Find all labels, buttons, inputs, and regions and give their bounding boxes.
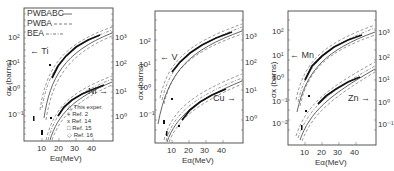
svg-text:10¹: 10¹ — [245, 86, 257, 95]
legend-lines: PWBABC PWBA BEA — [27, 8, 72, 38]
svg-text:30: 30 — [333, 148, 342, 157]
svg-text:10³: 10³ — [115, 33, 127, 42]
svg-text:10²: 10² — [115, 59, 127, 68]
panel-v-cu: ← V Cu → 10² 10¹ 10⁰ 10⁻¹ 10³ 10² 10¹ 10… — [136, 11, 257, 165]
svg-text:10: 10 — [300, 148, 309, 157]
svg-text:20: 20 — [317, 148, 326, 157]
panel-ti-ni: PWBABC PWBA BEA ← Ti Ni → — [4, 8, 127, 163]
right-y-ticks: 10³ 10² 10¹ 10⁰ — [115, 33, 127, 121]
y-axis-label: σx (barns) — [136, 63, 145, 100]
svg-text:10²: 10² — [272, 27, 284, 36]
svg-text:10⁻²: 10⁻² — [272, 119, 288, 128]
figure: PWBABC PWBA BEA ← Ti Ni → — [0, 0, 394, 171]
svg-text:10⁻¹: 10⁻¹ — [8, 110, 24, 119]
svg-text:10⁻¹: 10⁻¹ — [378, 120, 394, 129]
svg-text:30: 30 — [200, 146, 209, 155]
svg-text:10⁰: 10⁰ — [378, 98, 390, 107]
mn-label: ← Mn — [290, 50, 314, 60]
svg-text:x Ref. 14: x Ref. 14 — [67, 118, 92, 124]
x-ticks: 10 20 30 40 — [37, 144, 96, 153]
svg-text:10²: 10² — [378, 53, 390, 62]
plot-frame — [155, 11, 243, 143]
x-axis-label: Eα(MeV) — [50, 154, 82, 163]
v-label: ← V — [160, 52, 178, 62]
data-markers — [163, 98, 180, 136]
svg-text:40: 40 — [350, 148, 359, 157]
svg-text:△ This exper.: △ This exper. — [67, 104, 103, 110]
y-axis-label: σx (barns) — [4, 59, 13, 96]
y-axis-label: σx (barns) — [269, 61, 278, 98]
svg-text:10²: 10² — [245, 58, 257, 67]
svg-text:10⁰: 10⁰ — [115, 112, 127, 121]
svg-text:PWBABC: PWBABC — [27, 8, 64, 18]
svg-text:10³: 10³ — [378, 28, 390, 37]
svg-text:20: 20 — [54, 144, 63, 153]
svg-text:10¹: 10¹ — [115, 87, 127, 96]
svg-text:10²: 10² — [139, 37, 151, 46]
v-curves — [158, 24, 242, 124]
svg-text:40: 40 — [87, 144, 96, 153]
x-axis-label: Eα(MeV) — [315, 158, 347, 167]
zn-label: Zn → — [348, 93, 370, 103]
svg-text:10: 10 — [37, 144, 46, 153]
x-ticks: 10 20 30 40 — [167, 146, 226, 155]
plot-frame — [288, 11, 376, 145]
x-ticks: 10 20 30 40 — [300, 148, 359, 157]
right-y-ticks: 10³ 10² 10¹ 10⁰ — [245, 32, 257, 123]
svg-text:20: 20 — [184, 146, 193, 155]
svg-text:◇ Ref. 16: ◇ Ref. 16 — [67, 132, 94, 138]
legend-markers: △ This exper. + Ref. 2 x Ref. 14 □ Ref. … — [67, 104, 103, 138]
right-y-ticks: 10³ 10² 10¹ 10⁰ 10⁻¹ — [378, 28, 394, 129]
svg-text:40: 40 — [217, 146, 226, 155]
svg-text:+ Ref. 2: + Ref. 2 — [67, 111, 89, 117]
svg-text:30: 30 — [70, 144, 79, 153]
panel-mn-zn: ← Mn Zn → 10² 10¹ 10⁰ 10⁻¹ 10⁻² 10³ 10² … — [269, 11, 394, 167]
cu-curves — [164, 74, 242, 142]
svg-text:□ Ref. 15: □ Ref. 15 — [67, 125, 92, 131]
svg-text:10⁰: 10⁰ — [245, 114, 257, 123]
svg-text:10: 10 — [167, 146, 176, 155]
x-axis-label: Eα(MeV) — [182, 156, 214, 165]
ti-label: ← Ti — [30, 46, 49, 56]
svg-text:10³: 10³ — [245, 32, 257, 41]
ni-label: Ni → — [88, 86, 108, 96]
data-markers — [301, 95, 310, 130]
data-markers — [33, 64, 52, 135]
svg-text:10¹: 10¹ — [272, 51, 284, 60]
svg-text:10²: 10² — [8, 33, 20, 42]
cu-label: Cu → — [213, 93, 236, 103]
svg-text:PWBA: PWBA — [27, 18, 52, 28]
v-data — [172, 32, 232, 72]
svg-text:10¹: 10¹ — [378, 75, 390, 84]
svg-text:10⁻¹: 10⁻¹ — [139, 110, 155, 119]
svg-text:BEA: BEA — [27, 28, 44, 38]
